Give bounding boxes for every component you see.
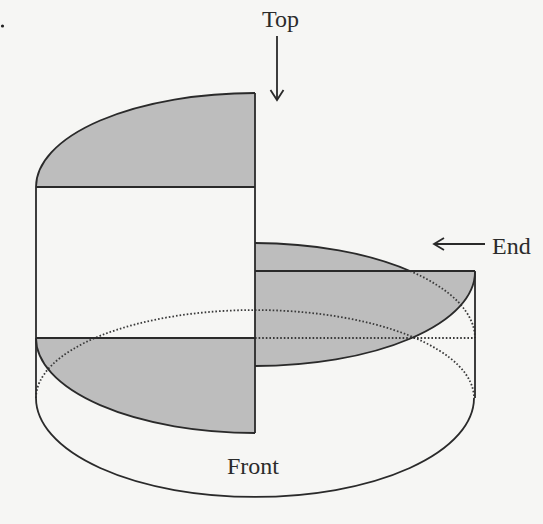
end-arrow-icon — [434, 238, 485, 250]
projection-diagram: Top End Front — [0, 0, 543, 524]
front-label: Front — [227, 453, 279, 479]
front-rectangle-face — [36, 187, 255, 338]
end-label: End — [492, 233, 531, 259]
top-label: Top — [262, 6, 299, 32]
stray-dot — [1, 24, 4, 27]
top-view-shape — [36, 93, 255, 187]
end-view-shape — [255, 243, 475, 366]
top-arrow-icon — [271, 36, 284, 100]
diagram-canvas: Top End Front — [0, 0, 543, 524]
